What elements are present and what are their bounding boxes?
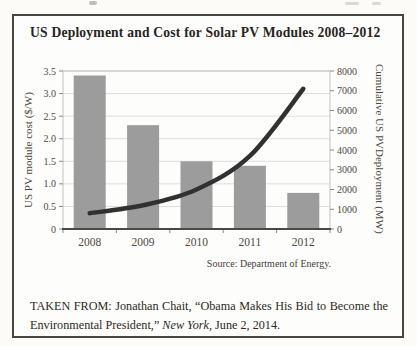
bar-2009 [127, 125, 159, 229]
bar-2012 [287, 193, 319, 229]
left-axis-tick-label: 3.0 [44, 88, 57, 99]
right-axis-tick-label: 3000 [337, 164, 357, 175]
right-axis-tick-label: 1000 [337, 204, 357, 215]
left-axis-tick-label: 2.5 [44, 111, 57, 122]
left-axis-title: US PV module cost ($/W) [20, 71, 36, 229]
x-axis-label: 2008 [78, 236, 101, 248]
scan-artifact [345, 2, 359, 5]
scan-artifact [372, 2, 381, 5]
right-axis-tick-label: 8000 [337, 66, 357, 77]
right-axis-tick-label: 0 [337, 224, 342, 235]
x-axis-label: 2009 [132, 236, 155, 248]
bar-2008 [74, 76, 106, 229]
caption-work-title: New York [162, 318, 209, 332]
right-axis-title-line1: Cumulative US PV [373, 64, 387, 149]
right-axis-tick-label: 6000 [337, 105, 357, 116]
scan-artifact [89, 1, 97, 5]
caption-tail: , June 2, 2014. [209, 318, 280, 332]
figure-box: US Deployment and Cost for Solar PV Modu… [12, 14, 404, 338]
attribution-caption: TAKEN FROM: Jonathan Chait, “Obama Makes… [30, 297, 388, 334]
right-axis-tick-label: 4000 [337, 145, 357, 156]
bar-2011 [234, 166, 266, 229]
left-axis-tick-label: 3.5 [44, 66, 57, 77]
x-axis-label: 2010 [185, 236, 208, 248]
source-note: Source: Department of Energy. [63, 258, 331, 269]
x-axis-label: 2011 [239, 236, 262, 248]
right-axis-title-line2: Deployment (MW) [373, 149, 387, 234]
x-axis-label: 2012 [292, 236, 315, 248]
right-axis-tick-label: 5000 [337, 125, 357, 136]
left-axis-tick-label: 2.0 [44, 133, 57, 144]
right-axis-tick-label: 7000 [337, 85, 357, 96]
right-axis-tick-label: 2000 [337, 184, 357, 195]
left-axis-tick-label: 0.5 [44, 201, 57, 212]
left-axis-tick-label: 1.5 [44, 156, 57, 167]
right-axis-title: Cumulative US PV Deployment (MW) [365, 64, 395, 232]
combo-chart: 00.51.01.52.02.53.03.5010002000300040005… [14, 16, 402, 288]
left-axis-tick-label: 0 [51, 224, 56, 235]
left-axis-tick-label: 1.0 [44, 178, 57, 189]
